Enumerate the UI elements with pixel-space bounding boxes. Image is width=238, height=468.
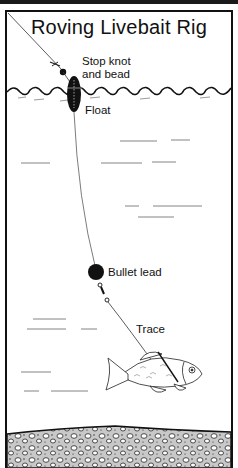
water-ripples — [18, 97, 210, 101]
bait-fish-icon — [106, 352, 202, 392]
swivel-icon — [98, 283, 109, 302]
gravel-bed — [7, 426, 231, 468]
bullet-lead-icon — [88, 264, 104, 280]
label-and-bead: and bead — [82, 68, 130, 81]
label-bullet-lead: Bullet lead — [108, 266, 162, 279]
label-trace: Trace — [136, 323, 165, 336]
label-stop-knot: Stop knot — [82, 55, 131, 68]
line-to-lead — [74, 112, 96, 270]
label-float: Float — [85, 104, 111, 117]
water-surface — [7, 87, 231, 94]
diagram-title: Roving Livebait Rig — [0, 16, 238, 39]
